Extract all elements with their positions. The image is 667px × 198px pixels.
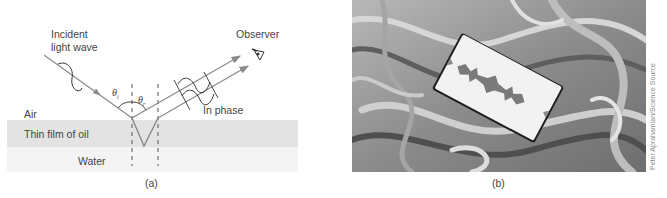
observer-eye-icon bbox=[252, 49, 264, 60]
panel-b-razor-photo bbox=[352, 0, 646, 172]
in-phase-label: In phase bbox=[203, 104, 243, 116]
in-phase-wave-1 bbox=[178, 78, 210, 93]
air-label: Air bbox=[24, 108, 37, 120]
incident-label-line1: Incident bbox=[51, 28, 88, 40]
panel-a-thin-film-diagram: Incident light wave Observer θi θr In ph… bbox=[0, 0, 340, 198]
caption-b: (b) bbox=[492, 177, 505, 189]
water-band bbox=[7, 147, 298, 172]
in-phase-wave-2 bbox=[182, 90, 214, 105]
incident-label-line2: light wave bbox=[51, 41, 98, 53]
theta-i-label: θi bbox=[112, 87, 119, 103]
oil-film-label: Thin film of oil bbox=[24, 128, 89, 140]
water-label: Water bbox=[78, 155, 106, 167]
observer-label: Observer bbox=[236, 28, 279, 40]
incident-ray bbox=[44, 55, 132, 118]
oil-swirl-photo bbox=[352, 0, 646, 172]
angle-arc-incident bbox=[118, 102, 132, 108]
photo-credit: Peter Aprahamian/Science Source bbox=[649, 63, 656, 170]
caption-a: (a) bbox=[145, 177, 158, 189]
theta-r-label: θr bbox=[138, 94, 145, 110]
